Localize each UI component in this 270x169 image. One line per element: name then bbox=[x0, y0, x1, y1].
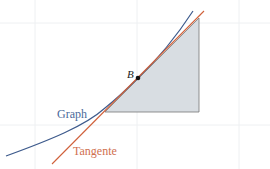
diagram-canvas bbox=[0, 0, 270, 169]
tangent-label: Tangente bbox=[73, 145, 117, 157]
slope-triangle bbox=[105, 18, 199, 112]
graph-label: Graph bbox=[57, 108, 87, 120]
point-b-label: B bbox=[127, 68, 134, 80]
point-b-marker bbox=[136, 76, 141, 81]
